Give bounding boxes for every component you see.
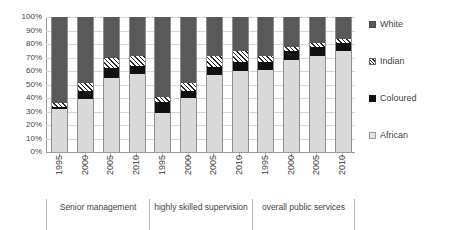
bar-segment-indian[interactable] bbox=[155, 97, 170, 102]
stacked-bar[interactable] bbox=[154, 17, 171, 152]
stacked-bar[interactable] bbox=[283, 17, 300, 152]
bar-segment-african[interactable] bbox=[336, 51, 351, 152]
x-axis: 1995200020052010199520002005201019952000… bbox=[46, 153, 355, 230]
legend-item-label: Indian bbox=[380, 57, 405, 66]
bar-segment-african[interactable] bbox=[310, 56, 325, 152]
legend-item-label: Coloured bbox=[380, 94, 417, 103]
bar-segment-indian[interactable] bbox=[258, 56, 273, 61]
bar-segment-coloured[interactable] bbox=[78, 91, 93, 99]
bar-segment-coloured[interactable] bbox=[52, 107, 67, 108]
x-axis-tick-label: 1995 bbox=[260, 155, 269, 175]
x-axis-group-label: overall public services bbox=[255, 202, 352, 213]
y-axis: 100%90%80%70%60%50%40%30%20%10%0% bbox=[4, 17, 42, 153]
bar-segment-white[interactable] bbox=[284, 17, 299, 47]
bar-segment-indian[interactable] bbox=[284, 47, 299, 51]
stacked-bar[interactable] bbox=[129, 17, 146, 152]
bar-segment-indian[interactable] bbox=[104, 58, 119, 69]
legend-item-white[interactable]: White bbox=[369, 20, 403, 29]
bar-segment-african[interactable] bbox=[233, 71, 248, 152]
white-swatch-icon bbox=[369, 21, 376, 28]
x-axis-tick: 2005 bbox=[98, 153, 122, 198]
x-axis-tick-label: 2005 bbox=[312, 155, 321, 175]
x-axis-tick-label: 2000 bbox=[183, 155, 192, 175]
bar-segment-african[interactable] bbox=[207, 75, 222, 152]
legend-item-indian[interactable]: Indian bbox=[369, 57, 405, 66]
stacked-bar[interactable] bbox=[77, 17, 94, 152]
bar-segment-white[interactable] bbox=[181, 17, 196, 83]
y-axis-tick-label: 50% bbox=[8, 81, 42, 89]
x-axis-tick-label: 2005 bbox=[209, 155, 218, 175]
y-axis-tick-label: 70% bbox=[8, 54, 42, 62]
bar-segment-indian[interactable] bbox=[130, 56, 145, 65]
bar-segment-african[interactable] bbox=[284, 60, 299, 152]
bar-segment-african[interactable] bbox=[155, 113, 170, 152]
bar-segment-white[interactable] bbox=[78, 17, 93, 83]
indian-swatch-icon bbox=[369, 58, 376, 65]
bar-segment-coloured[interactable] bbox=[207, 67, 222, 75]
bar-segment-coloured[interactable] bbox=[310, 47, 325, 56]
y-axis-tick-label: 20% bbox=[8, 121, 42, 129]
stacked-bar[interactable] bbox=[103, 17, 120, 152]
stacked-bar[interactable] bbox=[309, 17, 326, 152]
bar-segment-african[interactable] bbox=[104, 78, 119, 152]
x-axis-tick: 2000 bbox=[176, 153, 200, 198]
x-axis-tick: 1995 bbox=[253, 153, 277, 198]
stacked-bar[interactable] bbox=[335, 17, 352, 152]
x-axis-tick: 1995 bbox=[47, 153, 71, 198]
bar-segment-indian[interactable] bbox=[336, 39, 351, 43]
x-axis-tick: 2000 bbox=[279, 153, 303, 198]
x-axis-tick-label: 2005 bbox=[106, 155, 115, 175]
bar-segment-white[interactable] bbox=[207, 17, 222, 56]
x-axis-group-label: Senior management bbox=[49, 202, 147, 213]
bar-segment-coloured[interactable] bbox=[284, 51, 299, 60]
bar-segment-african[interactable] bbox=[258, 70, 273, 152]
bar-segment-indian[interactable] bbox=[207, 56, 222, 67]
bar-segment-coloured[interactable] bbox=[130, 66, 145, 74]
bar-segment-coloured[interactable] bbox=[181, 91, 196, 98]
bar-segment-indian[interactable] bbox=[181, 83, 196, 91]
bar-segment-african[interactable] bbox=[181, 98, 196, 152]
x-axis-tick: 2005 bbox=[304, 153, 328, 198]
bar-segment-indian[interactable] bbox=[52, 103, 67, 107]
y-axis-tick-label: 90% bbox=[8, 27, 42, 35]
x-axis-group: overall public services bbox=[252, 199, 355, 230]
bar-segment-white[interactable] bbox=[310, 17, 325, 43]
bar-segment-white[interactable] bbox=[104, 17, 119, 58]
bar-segment-african[interactable] bbox=[78, 99, 93, 152]
bar-segment-indian[interactable] bbox=[78, 83, 93, 91]
stacked-bar[interactable] bbox=[257, 17, 274, 152]
bar-segment-white[interactable] bbox=[52, 17, 67, 103]
x-axis-tick: 2010 bbox=[124, 153, 148, 198]
legend-item-african[interactable]: African bbox=[369, 131, 408, 140]
bar-segment-white[interactable] bbox=[336, 17, 351, 39]
bar-segment-african[interactable] bbox=[52, 109, 67, 152]
stacked-bar[interactable] bbox=[232, 17, 249, 152]
x-axis-tick: 2010 bbox=[227, 153, 251, 198]
bar-segment-coloured[interactable] bbox=[233, 62, 248, 71]
bar-segment-indian[interactable] bbox=[310, 43, 325, 47]
bar-segment-coloured[interactable] bbox=[336, 43, 351, 51]
x-axis-group-label: highly skilled supervision bbox=[152, 202, 250, 213]
bar-segment-white[interactable] bbox=[155, 17, 170, 97]
chart-figure: 100%90%80%70%60%50%40%30%20%10%0% 199520… bbox=[0, 0, 449, 230]
x-axis-tick: 1995 bbox=[150, 153, 174, 198]
stacked-bar[interactable] bbox=[180, 17, 197, 152]
bar-segment-coloured[interactable] bbox=[104, 68, 119, 77]
bar-segment-white[interactable] bbox=[233, 17, 248, 51]
bar-segment-coloured[interactable] bbox=[155, 102, 170, 113]
bar-segment-african[interactable] bbox=[130, 74, 145, 152]
legend-item-coloured[interactable]: Coloured bbox=[369, 94, 417, 103]
stacked-bar[interactable] bbox=[51, 17, 68, 152]
y-axis-tick-label: 10% bbox=[8, 135, 42, 143]
bar-segment-indian[interactable] bbox=[233, 51, 248, 62]
y-axis-tick-label: 40% bbox=[8, 94, 42, 102]
bar-segment-coloured[interactable] bbox=[258, 62, 273, 70]
x-axis-group: highly skilled supervision bbox=[149, 199, 252, 230]
y-axis-tick-label: 80% bbox=[8, 40, 42, 48]
stacked-bar[interactable] bbox=[206, 17, 223, 152]
bar-segment-white[interactable] bbox=[258, 17, 273, 56]
x-axis-tick: 2000 bbox=[73, 153, 97, 198]
bar-segment-white[interactable] bbox=[130, 17, 145, 56]
x-axis-tick: 2010 bbox=[330, 153, 354, 198]
chart-legend: WhiteIndianColouredAfrican bbox=[369, 20, 449, 150]
